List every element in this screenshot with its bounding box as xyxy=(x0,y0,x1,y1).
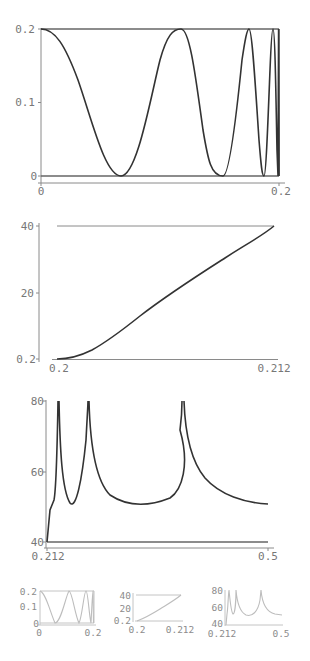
thumbnail-oscillation: 0.2 0.1 0 0 0.2 xyxy=(20,586,102,638)
y-tick-label: 60 xyxy=(212,602,224,613)
y-tick-label: 0.2 xyxy=(15,23,35,36)
charts-canvas: 0.2 0.1 0 0 0.2 40 20 0.2 0.2 0.212 80 6… xyxy=(0,0,310,661)
y-tick-label: 0.1 xyxy=(20,601,37,612)
x-tick-label: 0.212 xyxy=(208,628,237,639)
x-tick-label: 0.2 xyxy=(84,627,101,638)
data-curve xyxy=(40,591,94,623)
y-tick-label: 80 xyxy=(31,395,44,408)
thumbnail-resonance: 80 60 40 0.212 0.5 xyxy=(208,585,290,639)
x-tick-label: 0 xyxy=(38,185,45,198)
data-curve xyxy=(226,590,282,625)
data-curve xyxy=(41,29,279,176)
x-tick-label: 0.212 xyxy=(166,624,195,635)
data-curve xyxy=(47,401,268,542)
data-curve xyxy=(57,226,274,359)
y-tick-label: 40 xyxy=(21,220,34,233)
x-tick-label: 0.5 xyxy=(272,628,289,639)
x-tick-label: 0 xyxy=(36,627,42,638)
x-tick-label: 0.2 xyxy=(271,185,291,198)
x-tick-label: 0.5 xyxy=(258,550,278,563)
y-tick-label: 20 xyxy=(21,287,34,300)
chart-rising: 40 20 0.2 0.2 0.212 xyxy=(16,220,290,375)
x-tick-label: 0.2 xyxy=(49,362,69,375)
x-tick-label: 0.2 xyxy=(128,624,145,635)
y-tick-label: 60 xyxy=(31,466,44,479)
data-curve xyxy=(137,595,181,621)
y-tick-label: 0.2 xyxy=(16,353,36,366)
y-tick-label: 0.2 xyxy=(20,586,37,597)
thumbnail-rising: 40 20 0.2 0.2 0.212 xyxy=(114,590,194,635)
x-tick-label: 0.212 xyxy=(31,550,64,563)
y-tick-label: 40 xyxy=(120,590,132,601)
y-tick-label: 80 xyxy=(212,585,224,596)
y-tick-label: 0.1 xyxy=(15,96,35,109)
chart-oscillation: 0.2 0.1 0 0 0.2 xyxy=(15,23,291,198)
y-tick-label: 0 xyxy=(30,170,37,183)
x-tick-label: 0.212 xyxy=(257,362,290,375)
y-tick-label: 20 xyxy=(120,603,132,614)
y-tick-label: 40 xyxy=(31,536,44,549)
chart-resonance: 80 60 40 0.212 0.5 xyxy=(31,395,278,563)
